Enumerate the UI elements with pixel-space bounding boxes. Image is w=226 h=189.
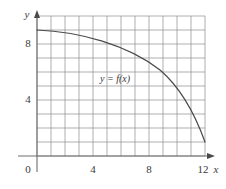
x-axis-arrow	[207, 153, 215, 159]
graph-svg: y x 0 4 8 12 8 4 y = f(x)	[0, 0, 226, 189]
x-tick-label-8: 8	[146, 163, 152, 175]
x-tick-label-4: 4	[90, 163, 96, 175]
origin-label: 0	[25, 163, 31, 175]
y-axis-label: y	[24, 8, 30, 20]
graph-figure: y x 0 4 8 12 8 4 y = f(x)	[0, 0, 226, 189]
x-axis-label: x	[213, 163, 219, 175]
curve-equation-label: y = f(x)	[99, 73, 131, 85]
x-tick-label-12: 12	[198, 163, 209, 175]
y-axis-arrow	[34, 10, 40, 18]
y-tick-label-4: 4	[25, 93, 31, 105]
y-tick-label-8: 8	[25, 37, 31, 49]
